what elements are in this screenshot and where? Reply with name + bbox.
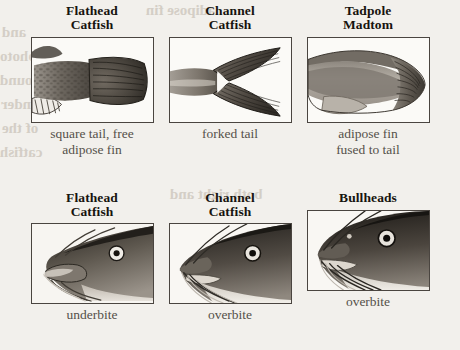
species-label: Channel Catfish [205,191,254,218]
figure-cell-tadpole-madtom-tail: Tadpole Madtom [299,4,437,158]
channel-forked-tail-illustration [170,38,291,122]
species-label: Bullheads [339,191,397,205]
species-label: Flathead Catfish [66,191,118,218]
specimen-image-channel-jaw [169,223,292,304]
specimen-image-tadpole-madtom-tail [307,37,430,123]
species-label: Flathead Catfish [66,4,118,31]
bullhead-head-overbite-illustration [308,211,429,290]
figure-cell-bullheads-jaw: Bullheads [299,191,437,323]
specimen-image-flathead-tail [31,37,154,123]
figure-cell-flathead-tail: Flathead Catfish [23,4,161,158]
specimen-image-bullheads-jaw [307,210,430,291]
specimen-caption: adipose fin fused to tail [336,126,400,158]
figure-cell-channel-jaw: Channel Catfish [161,191,299,323]
specimen-caption: underbite [67,307,118,323]
specimen-caption: overbite [208,307,252,323]
tail-comparison-row: Flathead Catfish [0,4,460,158]
channel-head-overbite-illustration [170,224,291,303]
madtom-fused-fin-illustration [308,38,429,122]
figure-cell-flathead-jaw: Flathead Catfish [23,191,161,323]
catfish-identification-figure: Flathead Catfish [0,0,460,350]
jaw-comparison-row: Flathead Catfish [0,191,460,323]
specimen-image-flathead-jaw [31,223,154,304]
specimen-caption: overbite [346,294,390,310]
specimen-image-channel-tail [169,37,292,123]
specimen-caption: square tail, free adipose fin [50,126,134,158]
specimen-caption: forked tail [202,126,258,142]
flathead-head-underbite-illustration [32,224,153,303]
figure-cell-channel-tail: Channel Catfish [161,4,299,158]
species-label: Tadpole Madtom [343,4,393,31]
species-label: Channel Catfish [205,4,254,31]
flathead-tail-illustration [32,38,153,122]
